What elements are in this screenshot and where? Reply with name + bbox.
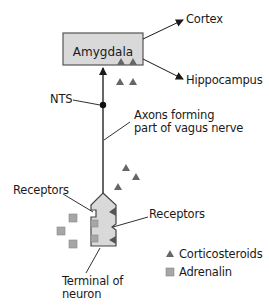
legend-square-icon [166,268,174,276]
legend-corticosteroids-label: Corticosteroids [179,248,262,261]
terminal-label-line2: neuron [62,288,101,301]
corticosteroid-triangles-loose [114,164,140,190]
arrow-to-hippocampus [143,59,183,79]
nts-dot [100,102,106,108]
legend-adrenalin-label: Adrenalin [179,266,232,279]
adrenalin-squares-loose [57,214,77,248]
arrow-to-cortex [143,20,183,39]
hippocampus-label: Hippocampus [186,74,262,87]
nts-leader [73,100,100,105]
axons-leader [104,122,130,140]
amygdala-label: Amygdala [63,33,143,59]
corticosteroid-triangles-below-box [116,78,137,85]
receptors-right-label: Receptors [149,208,205,221]
terminal-leader [86,248,100,273]
axons-label-line2: part of vagus nerve [134,122,243,135]
receptors-left-label: Receptors [13,184,69,197]
legend-triangle-icon [166,250,174,257]
nts-label: NTS [50,93,72,106]
receptors-right-leader [113,217,148,227]
cortex-label: Cortex [186,13,223,26]
